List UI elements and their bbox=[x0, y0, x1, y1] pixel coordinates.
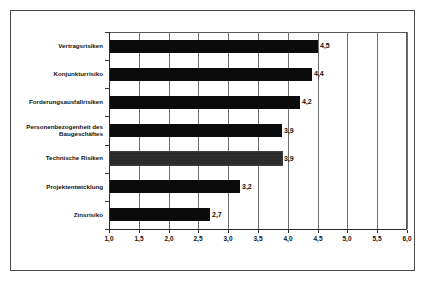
bar-value-label: 3,9 bbox=[284, 127, 294, 135]
x-tick-label: 6,0 bbox=[394, 235, 420, 243]
x-tick-label: 3,0 bbox=[215, 235, 241, 243]
y-tick-mark bbox=[105, 116, 109, 117]
x-tick-label: 1,5 bbox=[126, 235, 152, 243]
x-tick-label: 2,0 bbox=[156, 235, 182, 243]
bar[interactable] bbox=[110, 124, 282, 137]
x-tick-label: 5,0 bbox=[334, 235, 360, 243]
x-tick-mark bbox=[258, 230, 259, 233]
category-label: Forderungsausfallrisiken bbox=[11, 98, 103, 106]
bar-value-label: 3,9 bbox=[284, 155, 294, 163]
bar[interactable] bbox=[110, 68, 312, 81]
bar[interactable] bbox=[110, 208, 210, 221]
bar-highlighted[interactable] bbox=[110, 152, 282, 165]
x-tick-mark bbox=[318, 230, 319, 233]
y-tick-mark bbox=[105, 60, 109, 61]
bar[interactable] bbox=[110, 96, 300, 109]
bar-value-label: 4,4 bbox=[314, 70, 324, 78]
gridline bbox=[407, 32, 408, 229]
figure-frame: 4,54,44,23,93,93,22,7 VertragsrisikenKon… bbox=[10, 10, 415, 271]
x-tick-mark bbox=[198, 230, 199, 233]
x-tick-label: 1,0 bbox=[96, 235, 122, 243]
x-tick-label: 5,5 bbox=[364, 235, 390, 243]
x-tick-mark bbox=[347, 230, 348, 233]
y-tick-mark bbox=[105, 145, 109, 146]
category-label: Vertragsrisiken bbox=[11, 42, 103, 50]
category-label: Projektentwicklung bbox=[11, 183, 103, 191]
x-tick-mark bbox=[228, 230, 229, 233]
category-label: Zinsrisiko bbox=[11, 211, 103, 219]
y-tick-mark bbox=[105, 173, 109, 174]
y-tick-mark bbox=[105, 88, 109, 89]
bar-value-label: 2,7 bbox=[212, 211, 222, 219]
x-tick-label: 4,0 bbox=[275, 235, 301, 243]
x-tick-mark bbox=[169, 230, 170, 233]
bar-chart: 4,54,44,23,93,93,22,7 VertragsrisikenKon… bbox=[11, 11, 416, 272]
x-tick-mark bbox=[139, 230, 140, 233]
gridline bbox=[318, 32, 319, 229]
category-label: Technische Risiken bbox=[11, 154, 103, 162]
x-tick-label: 3,5 bbox=[245, 235, 271, 243]
x-tick-label: 4,5 bbox=[305, 235, 331, 243]
bar[interactable] bbox=[110, 40, 318, 53]
x-tick-mark bbox=[288, 230, 289, 233]
y-tick-mark bbox=[105, 32, 109, 33]
x-tick-mark bbox=[109, 230, 110, 233]
category-label: Personenbezogenheit des Baugeschäftes bbox=[11, 123, 103, 138]
y-tick-mark bbox=[105, 201, 109, 202]
x-tick-mark bbox=[377, 230, 378, 233]
bar-value-label: 4,2 bbox=[302, 98, 312, 106]
x-tick-mark bbox=[407, 230, 408, 233]
bar-value-label: 4,5 bbox=[320, 42, 330, 50]
x-tick-label: 2,5 bbox=[185, 235, 211, 243]
bar[interactable] bbox=[110, 180, 240, 193]
gridline bbox=[347, 32, 348, 229]
bar-value-label: 3,2 bbox=[242, 183, 252, 191]
category-label: Konjunkturrisiko bbox=[11, 70, 103, 78]
y-tick-mark bbox=[105, 229, 109, 230]
gridline bbox=[377, 32, 378, 229]
